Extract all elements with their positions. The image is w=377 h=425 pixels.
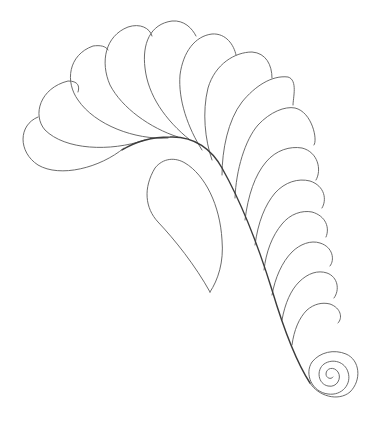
- plume-15: [292, 303, 341, 345]
- feather-spine: [122, 137, 310, 383]
- plume-2: [39, 81, 145, 147]
- upper-plumes: [23, 21, 272, 171]
- feather-illustration: [0, 0, 377, 425]
- plume-8: [222, 77, 294, 175]
- plume-13: [272, 242, 333, 295]
- teardrop-motif: [147, 159, 222, 292]
- plume-4: [105, 26, 178, 137]
- plume-12: [264, 212, 327, 271]
- spiral-end: [309, 352, 358, 397]
- right-plumes: [222, 77, 341, 345]
- spiral-outer: [309, 352, 358, 397]
- plume-3: [70, 46, 168, 139]
- plume-14: [282, 272, 337, 320]
- feather-drawing-canvas: Quilting feather pattern line drawing: [0, 0, 377, 425]
- plume-10: [245, 148, 319, 220]
- plume-7: [205, 52, 272, 160]
- plume-9: [235, 108, 315, 198]
